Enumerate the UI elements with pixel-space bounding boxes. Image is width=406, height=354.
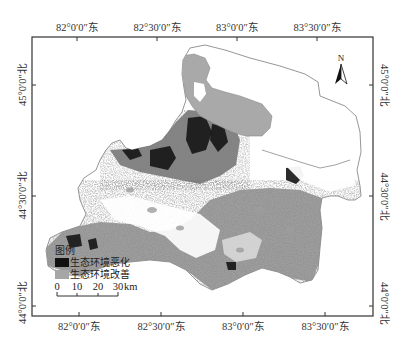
legend-label-degradation: 生态环境恶化 bbox=[70, 256, 130, 268]
bottom-axis-label: 83°30′0″东 bbox=[301, 320, 348, 332]
legend-title: 图例 bbox=[55, 244, 75, 256]
legend-label-improvement: 生态环境改善 bbox=[70, 268, 130, 280]
scale-tick-label: 10 bbox=[72, 281, 83, 292]
legend-swatch-degradation bbox=[55, 258, 69, 267]
bottom-axis-label: 82°30′0″东 bbox=[137, 320, 184, 332]
top-axis-label: 83°0′0″东 bbox=[216, 21, 258, 33]
left-axis-label: 44°0′0″北 bbox=[17, 281, 28, 324]
left-axis-label: 44°30′0″北 bbox=[17, 171, 28, 219]
left-axis-label: 45°0′0″北 bbox=[17, 63, 28, 106]
north-label: N bbox=[338, 53, 345, 63]
right-axis-label: 44°0′0″北 bbox=[379, 282, 390, 325]
legend-swatch-improvement bbox=[55, 270, 69, 279]
improvement-patch bbox=[126, 188, 134, 193]
improvement-patch bbox=[254, 207, 266, 213]
bottom-axis-label: 83°0′0″东 bbox=[222, 320, 264, 332]
improvement-patch bbox=[176, 226, 184, 231]
scale-tick-label: 0 bbox=[54, 281, 59, 292]
bottom-axis-label: 82°0′0″东 bbox=[58, 320, 100, 332]
north-arrow-icon bbox=[335, 64, 347, 84]
right-axis-label: 44°30′0″北 bbox=[379, 172, 390, 220]
top-axis-label: 82°30′0″东 bbox=[133, 21, 180, 33]
improvement-patch bbox=[147, 207, 157, 213]
improvement-patch bbox=[236, 248, 244, 253]
north-arrow: N bbox=[335, 53, 347, 84]
scale-tick-label: 20 bbox=[93, 281, 104, 292]
scale-bar-line bbox=[57, 292, 118, 296]
scale-bar: 0 10 20 30 km bbox=[54, 281, 137, 296]
scale-tick-label: 30 bbox=[113, 281, 124, 292]
improvement-patch bbox=[285, 227, 295, 234]
top-axis-label: 83°30′0″东 bbox=[293, 21, 340, 33]
top-axis-label: 82°0′0″东 bbox=[56, 21, 98, 33]
right-axis-label: 45°0′0″北 bbox=[379, 64, 390, 107]
map-figure: 82°0′0″东 82°30′0″东 83°0′0″东 83°30′0″东 82… bbox=[0, 0, 406, 354]
scale-unit: km bbox=[124, 281, 137, 292]
